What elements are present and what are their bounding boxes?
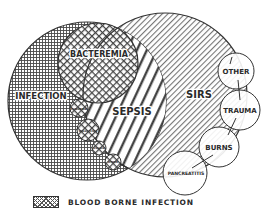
diagram-canvas: FUNGEMIA PARASITEMIA VIREMIA OTHER OTHER… [0,0,266,218]
parasitemia-label: PARASITEMIA [79,130,97,133]
sepsis-venn-diagram: FUNGEMIA PARASITEMIA VIREMIA OTHER OTHER… [0,0,266,218]
fungemia-label: FUNGEMIA [71,108,87,111]
legend: BLOOD BORNE INFECTION [33,196,194,208]
legend-label: BLOOD BORNE INFECTION [68,198,194,207]
crosshatch-swatch-icon [33,196,59,208]
viremia-label: VIREMIA [93,147,104,150]
sirs-label: SIRS [186,89,212,100]
bacteremia-circle [58,23,138,103]
infection-label: INFECTION [15,91,66,101]
pancreatitis-label: PANCREATITIS [168,171,205,176]
other-cause-label: OTHER [223,68,250,76]
bacteremia-label: BACTEREMIA [70,50,129,59]
trauma-label: TRAUMA [223,107,257,115]
other-blood-label: OTHER [108,161,118,164]
burns-label: BURNS [205,144,232,152]
sepsis-label: SEPSIS [112,106,152,117]
